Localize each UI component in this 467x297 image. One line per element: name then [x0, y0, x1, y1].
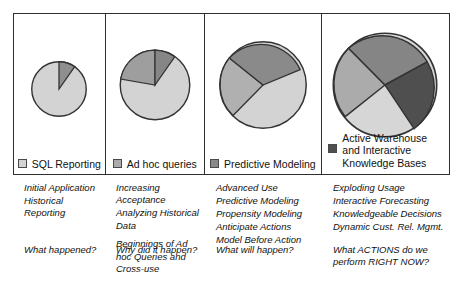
bullet-list-2: Increasing Acceptance Analyzing Historic… [116, 182, 205, 275]
legend-stage-2: Ad hoc queries [113, 158, 197, 171]
bullet-list-1: Initial Application Historical Reporting [24, 182, 105, 220]
stage-column-2: Ad hoc queries [106, 14, 206, 174]
stage-question-4: What ACTIONS do we perform RIGHT NOW? [333, 244, 451, 269]
list-item: Exploding Usage [333, 182, 450, 194]
list-item: Anticipate Actions [216, 221, 322, 233]
description-column-3: Advanced Use Predictive Modeling Propens… [205, 182, 322, 292]
legend-stage-4: Active Warehouse and Interactive Knowled… [328, 132, 442, 170]
legend-swatch-predictive-modeling [210, 159, 219, 168]
bullet-list-4: Exploding Usage Interactive Forecasting … [333, 182, 450, 233]
description-column-2: Increasing Acceptance Analyzing Historic… [105, 182, 205, 292]
list-item: Historical Reporting [24, 195, 105, 220]
legend-swatch-active-warehouse [328, 144, 337, 153]
pie-chart-stage-1 [30, 60, 88, 118]
legend-label-active-warehouse: Active Warehouse and Interactive Knowled… [342, 132, 442, 170]
chart-panel-frame: SQL Reporting Ad hoc queries [13, 13, 450, 175]
bullet-list-3: Advanced Use Predictive Modeling Propens… [216, 182, 322, 246]
pie-chart-stage-2 [118, 48, 192, 122]
description-column-1: Initial Application Historical Reporting… [13, 182, 105, 292]
description-column-4: Exploding Usage Interactive Forecasting … [322, 182, 450, 292]
legend-swatch-sql-reporting [18, 159, 27, 168]
list-item: Interactive Forecasting [333, 195, 450, 207]
stage-column-4: Active Warehouse and Interactive Knowled… [322, 14, 449, 174]
description-row: Initial Application Historical Reporting… [13, 182, 450, 292]
stage-question-3: What will happen? [216, 244, 328, 256]
list-item: Advanced Use [216, 182, 322, 194]
stage-column-3: Predictive Modeling [205, 14, 321, 174]
legend-label-ad-hoc-queries: Ad hoc queries [127, 158, 197, 171]
pie-chart-stage-3 [217, 39, 309, 131]
legend-stage-3: Predictive Modeling [210, 158, 316, 171]
legend-label-predictive-modeling: Predictive Modeling [224, 158, 316, 171]
list-item: Predictive Modeling [216, 195, 322, 207]
pie-chart-stage-4 [330, 30, 440, 140]
list-item: Initial Application [24, 182, 105, 194]
legend-stage-1: SQL Reporting [18, 158, 101, 171]
list-item: Analyzing Historical Data [116, 207, 205, 232]
list-item: Dynamic Cust. Rel. Mgmt. [333, 221, 450, 233]
list-item: Knowledgeable Decisions [333, 208, 450, 220]
list-item: Increasing Acceptance [116, 182, 205, 207]
stage-column-1: SQL Reporting [14, 14, 106, 174]
legend-label-sql-reporting: SQL Reporting [32, 158, 101, 171]
list-item: Propensity Modeling [216, 208, 322, 220]
legend-swatch-ad-hoc-queries [113, 159, 122, 168]
figure-root: SQL Reporting Ad hoc queries [0, 0, 467, 297]
